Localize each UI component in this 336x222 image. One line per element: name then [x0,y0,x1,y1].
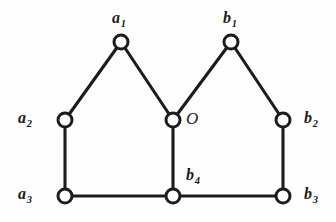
graph-vertex-b2 [276,113,290,127]
vertex-label-base-a3: a [18,185,26,202]
vertex-label-subscript-b4: 4 [195,175,200,186]
vertex-label-base-a2: a [18,109,26,126]
graph-vertex-O [166,113,180,127]
graph-edge-O-b1 [173,42,231,120]
graph-vertex-b3 [276,189,290,203]
graph-canvas [0,0,336,222]
graph-vertex-b1 [224,35,238,49]
vertex-label-base-a1: a [112,9,120,26]
vertex-label-base-O: O [186,109,198,128]
graph-vertex-b4 [166,189,180,203]
graph-edge-a2-a1 [65,42,121,120]
graph-edge-a1-O [121,42,173,120]
vertex-label-subscript-b3: 3 [313,194,318,205]
vertex-label-a1: a1 [112,10,126,26]
vertex-label-base-b4: b [186,166,194,183]
vertex-label-subscript-a3: 3 [27,194,32,205]
vertex-label-base-b3: b [304,185,312,202]
vertex-label-base-b1: b [223,9,231,26]
graph-vertex-a3 [58,189,72,203]
vertex-label-O: O [186,110,198,127]
vertex-label-b2: b2 [304,110,318,126]
figure-container: a1b1a2Ob2a3b4b3 [0,0,336,222]
vertex-label-subscript-a2: 2 [27,118,32,129]
vertex-label-b4: b4 [186,167,200,183]
vertex-label-b3: b3 [304,186,318,202]
graph-vertex-a1 [114,35,128,49]
vertex-label-b1: b1 [223,10,237,26]
graph-vertex-a2 [58,113,72,127]
vertex-label-subscript-b1: 1 [232,18,237,29]
vertex-label-base-b2: b [304,109,312,126]
vertex-label-a3: a3 [18,186,32,202]
vertex-label-subscript-a1: 1 [121,18,126,29]
vertex-label-subscript-b2: 2 [313,118,318,129]
graph-edge-b1-b2 [231,42,283,120]
vertex-label-a2: a2 [18,110,32,126]
